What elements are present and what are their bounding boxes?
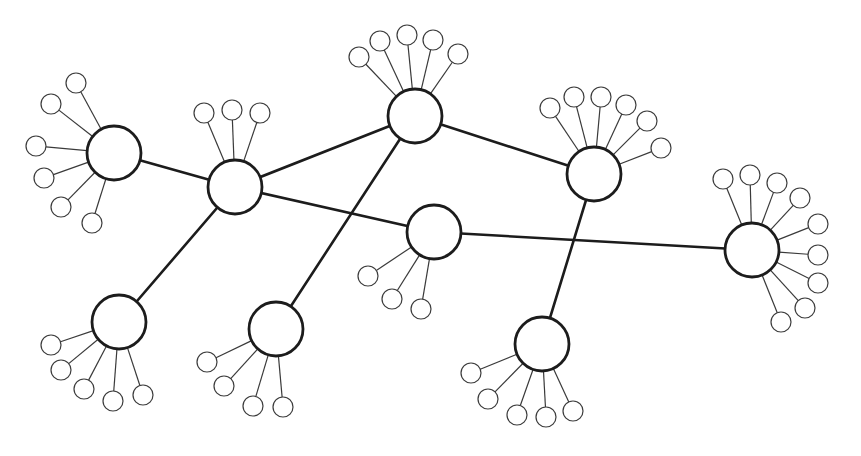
leaf-node (51, 197, 71, 217)
leaf-edge (278, 356, 282, 397)
leaf-node (771, 312, 791, 332)
leaf-node (767, 173, 787, 193)
leaf-node (461, 363, 481, 383)
leaf-edge (750, 185, 751, 223)
hub-node-h9 (515, 317, 569, 371)
leaf-node (563, 401, 583, 421)
network-diagram (0, 0, 861, 456)
leaf-node (51, 360, 71, 380)
leaf-edge (46, 147, 87, 151)
leaf-node (74, 379, 94, 399)
leaf-node (536, 407, 556, 427)
leaf-node (808, 214, 828, 234)
hub-node-h1 (87, 126, 141, 180)
leaf-node (713, 169, 733, 189)
leaf-edge (779, 252, 808, 254)
leaf-edge (480, 354, 517, 369)
leaf-edge (613, 128, 640, 155)
leaf-edge (232, 120, 234, 160)
leaf-edge (770, 270, 798, 301)
leaf-edge (59, 110, 93, 136)
leaf-node (507, 405, 527, 425)
leaf-node (243, 396, 263, 416)
leaf-node (795, 298, 815, 318)
leaf-edge (495, 363, 523, 392)
leaf-edge (408, 45, 412, 89)
leaf-node (103, 391, 123, 411)
leaf-edge (89, 346, 107, 380)
leaf-node (133, 385, 153, 405)
leaf-edge (114, 349, 117, 391)
leaf-node (197, 352, 217, 372)
leaf-edge (397, 255, 419, 291)
leaf-node (651, 138, 671, 158)
leaf-node (448, 44, 468, 64)
hub-node-h5 (407, 205, 461, 259)
leaf-edge (619, 152, 652, 165)
leaf-edge (60, 331, 93, 342)
leaf-edge (81, 92, 101, 129)
leaf-edge (95, 179, 106, 214)
hub-node-h2 (208, 160, 262, 214)
leaf-edge (366, 64, 397, 96)
leaf-edge (384, 50, 403, 91)
hub-node-h6 (725, 223, 779, 277)
leaf-node (808, 245, 828, 265)
leaf-edge (520, 369, 533, 405)
leaf-edge (127, 348, 139, 386)
leaf-edge (231, 349, 258, 379)
leaf-node (411, 299, 431, 319)
hub-edge-h2-h3 (235, 116, 415, 187)
leaf-node (382, 289, 402, 309)
hub-node-h7 (92, 295, 146, 349)
leaf-node (616, 95, 636, 115)
leaf-edge (727, 188, 742, 225)
leaf-node (273, 397, 293, 417)
leaf-node (358, 266, 378, 286)
leaf-node (637, 111, 657, 131)
leaf-node (540, 98, 560, 118)
leaf-edge (244, 122, 257, 161)
leaf-edge (776, 262, 809, 278)
leaf-edge (256, 355, 268, 397)
leaf-edge (777, 228, 809, 240)
leaf-node (478, 389, 498, 409)
leaf-edge (762, 275, 777, 313)
hub-edge-h2-h5 (235, 187, 434, 232)
leaf-node (423, 30, 443, 50)
leaf-edge (770, 205, 793, 230)
leaf-node (222, 100, 242, 120)
leaf-node (564, 87, 584, 107)
leaf-node (740, 165, 760, 185)
leaf-node (349, 47, 369, 67)
leaf-node (34, 168, 54, 188)
leaf-edge (543, 371, 545, 407)
leaf-edge (376, 247, 411, 270)
leaf-node (370, 31, 390, 51)
leaf-edge (68, 172, 95, 200)
leaf-edge (556, 116, 579, 151)
leaf-edge (208, 122, 225, 162)
leaf-node (591, 87, 611, 107)
hub-edge-h5-h6 (434, 232, 752, 250)
leaf-edge (605, 114, 621, 149)
leaf-edge (423, 259, 430, 300)
leaf-node (808, 273, 828, 293)
leaf-node (82, 213, 102, 233)
leaf-node (66, 73, 86, 93)
leaf-node (250, 103, 270, 123)
leaf-node (214, 376, 234, 396)
hub-node-h4 (567, 147, 621, 201)
leaf-node (790, 188, 810, 208)
leaf-node (194, 103, 214, 123)
leaf-edge (216, 341, 252, 358)
hub-nodes (87, 89, 779, 371)
leaf-edge (761, 192, 773, 224)
hub-node-h3 (388, 89, 442, 143)
leaf-edge (69, 339, 98, 363)
hub-node-h8 (249, 302, 303, 356)
leaf-node (41, 335, 61, 355)
leaf-edge (577, 107, 588, 148)
leaf-edge (430, 62, 452, 94)
leaf-node (26, 136, 46, 156)
